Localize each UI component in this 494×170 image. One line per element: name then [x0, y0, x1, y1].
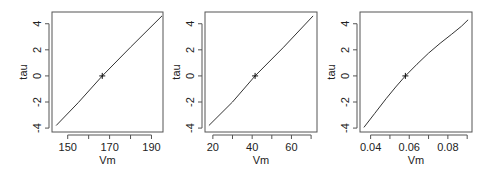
x-tick-label: 190	[142, 141, 160, 153]
y-axis-label: tau	[325, 64, 337, 79]
profile-curve	[56, 16, 162, 126]
y-tick-label: -2	[31, 97, 43, 107]
y-tick-label: -4	[339, 123, 351, 133]
plot-frame	[52, 12, 163, 132]
plot-panel-1: 150170190Vm-4-2024tau	[17, 12, 163, 166]
y-tick-label: 0	[184, 73, 196, 79]
y-tick-label: -2	[339, 97, 351, 107]
plot-panel-2: 204060Vm-4-2024tau	[170, 12, 317, 166]
y-axis-label: tau	[17, 64, 29, 79]
x-axis-label: Vm	[408, 154, 425, 166]
y-axis-label: tau	[170, 64, 182, 79]
x-axis-label: Vm	[99, 154, 116, 166]
y-tick-label: 0	[339, 73, 351, 79]
plot-panel-3: 0.040.060.08Vm-4-2024tau	[325, 12, 472, 166]
y-tick-label: 4	[339, 21, 351, 27]
x-tick-label: 0.08	[437, 141, 458, 153]
x-tick-label: 0.04	[360, 141, 381, 153]
y-tick-label: 2	[339, 47, 351, 53]
y-tick-label: 4	[184, 21, 196, 27]
x-tick-label: 0.06	[399, 141, 420, 153]
y-tick-label: -4	[184, 123, 196, 133]
y-tick-label: -2	[184, 97, 196, 107]
profile-plots-figure: 150170190Vm-4-2024tau204060Vm-4-2024tau0…	[0, 0, 494, 170]
x-axis-label: Vm	[253, 154, 270, 166]
profile-curve	[209, 16, 313, 126]
y-tick-label: 2	[184, 47, 196, 53]
y-tick-label: 4	[31, 21, 43, 27]
x-tick-label: 150	[59, 141, 77, 153]
x-tick-label: 20	[207, 141, 219, 153]
plot-frame	[360, 12, 472, 132]
y-tick-label: 2	[31, 47, 43, 53]
x-tick-label: 170	[100, 141, 118, 153]
profile-curve	[364, 20, 468, 128]
y-tick-label: 0	[31, 73, 43, 79]
x-tick-label: 60	[285, 141, 297, 153]
x-tick-label: 40	[246, 141, 258, 153]
plots-canvas: 150170190Vm-4-2024tau204060Vm-4-2024tau0…	[0, 0, 494, 170]
y-tick-label: -4	[31, 123, 43, 133]
